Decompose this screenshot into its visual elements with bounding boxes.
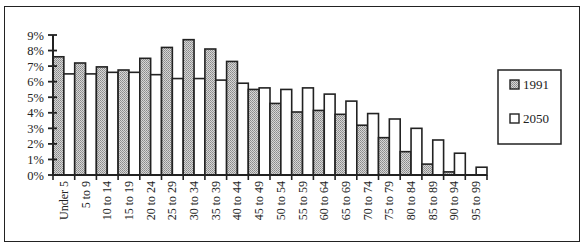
bar-2050-55-to-59: [303, 88, 314, 175]
bar-1991-5-to-9: [75, 63, 86, 175]
bar-2050-5-to-9: [86, 74, 97, 175]
y-tick-label: 6%: [27, 75, 44, 89]
bar-1991-55-to-59: [292, 112, 303, 175]
x-tick-label: 25 to 29: [165, 181, 179, 220]
y-tick-label: 0%: [27, 169, 44, 183]
x-tick-label: 70 to 74: [361, 181, 375, 220]
bar-1991-15-to-19: [118, 70, 129, 175]
x-tick-label: 40 to 44: [230, 181, 244, 220]
x-tick-label: 85 to 89: [426, 181, 440, 220]
bar-2050-25-to-29: [172, 79, 183, 175]
bar-2050-40-to-44: [237, 83, 248, 175]
bar-2050-10-to-14: [107, 72, 118, 175]
x-tick-label: 80 to 84: [404, 181, 418, 220]
bar-1991-under-5: [53, 57, 64, 175]
bar-2050-80-to-84: [411, 128, 422, 175]
bar-1991-45-to-49: [248, 89, 259, 175]
bars-group: [53, 40, 487, 175]
x-tick-label: 20 to 24: [144, 181, 158, 220]
legend-label-1991: 1991: [523, 77, 549, 92]
x-tick-label: 50 to 54: [274, 181, 288, 220]
x-tick-label: 90 to 94: [447, 181, 461, 220]
x-tick-label: 35 to 39: [209, 181, 223, 220]
bar-2050-60-to-64: [324, 94, 335, 175]
bar-1991-60-to-64: [313, 110, 324, 175]
x-axis: Under 55 to 910 to 1415 to 1920 to 2425 …: [53, 175, 487, 220]
x-tick-label: 60 to 64: [317, 181, 331, 220]
x-tick-label: 95 to 99: [469, 181, 483, 220]
y-tick-label: 3%: [27, 122, 44, 136]
bar-1991-50-to-54: [270, 103, 281, 175]
bar-2050-35-to-39: [216, 80, 227, 175]
bar-2050-70-to-74: [368, 114, 379, 175]
x-tick-label: 75 to 79: [382, 181, 396, 220]
bar-2050-90-to-94: [454, 153, 465, 175]
bar-2050-15-to-19: [129, 72, 140, 175]
bar-2050-85-to-89: [433, 140, 444, 175]
x-tick-label: 65 to 69: [339, 181, 353, 220]
bar-1991-85-to-89: [422, 164, 433, 175]
y-tick-label: 4%: [27, 106, 44, 120]
bar-1991-40-to-44: [227, 61, 238, 175]
x-tick-label: 5 to 9: [79, 181, 93, 208]
bar-2050-30-to-34: [194, 79, 205, 175]
bar-1991-70-to-74: [357, 125, 368, 175]
legend-label-2050: 2050: [523, 111, 549, 126]
x-tick-label: 55 to 59: [296, 181, 310, 220]
bar-1991-30-to-34: [183, 40, 194, 175]
y-tick-label: 8%: [27, 44, 44, 58]
bar-1991-65-to-69: [335, 114, 346, 175]
bar-2050-45-to-49: [259, 88, 270, 175]
bar-1991-75-to-79: [379, 138, 390, 175]
x-tick-label: 15 to 19: [122, 181, 136, 220]
bar-chart: 0%1%2%3%4%5%6%7%8%9% Under 55 to 910 to …: [0, 0, 586, 248]
bar-1991-10-to-14: [96, 67, 107, 175]
bar-2050-75-to-79: [389, 119, 400, 175]
y-axis: 0%1%2%3%4%5%6%7%8%9%: [27, 29, 57, 183]
bar-1991-25-to-29: [162, 47, 173, 175]
y-tick-label: 2%: [27, 137, 44, 151]
bar-1991-80-to-84: [400, 152, 411, 175]
bar-2050-50-to-54: [281, 89, 292, 175]
bar-2050-20-to-24: [151, 75, 162, 175]
bar-1991-35-to-39: [205, 49, 216, 175]
y-tick-label: 5%: [27, 91, 44, 105]
bar-1991-20-to-24: [140, 58, 151, 175]
bar-2050-65-to-69: [346, 101, 357, 175]
x-tick-label: 30 to 34: [187, 181, 201, 220]
y-tick-label: 1%: [27, 153, 44, 167]
bar-2050-under-5: [64, 74, 75, 175]
x-tick-label: 45 to 49: [252, 181, 266, 220]
x-tick-label: 10 to 14: [100, 181, 114, 220]
y-tick-label: 7%: [27, 60, 44, 74]
x-tick-label: Under 5: [57, 181, 71, 220]
y-tick-label: 9%: [27, 29, 44, 43]
bar-2050-95-to-99: [476, 167, 487, 175]
legend-swatch-2050: [510, 114, 519, 123]
legend-swatch-1991: [510, 80, 519, 89]
legend: 19912050: [498, 70, 561, 144]
